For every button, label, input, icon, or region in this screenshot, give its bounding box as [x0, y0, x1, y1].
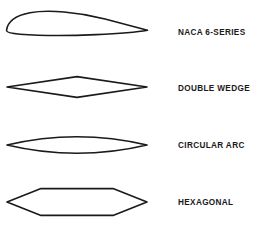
profile-label-naca-6-series: NACA 6-SERIES: [178, 29, 263, 37]
naca-6-series-shape: [0, 0, 160, 58]
profile-label-circular-arc: CIRCULAR ARC: [178, 142, 263, 150]
circular-arc-shape: [0, 116, 160, 174]
hexagonal-shape: [0, 173, 160, 231]
profile-label-hexagonal: HEXAGONAL: [178, 199, 263, 207]
double-wedge-shape: [0, 58, 160, 116]
airfoil-profiles-figure: NACA 6-SERIES DOUBLE WEDGE CIRCULAR ARC …: [0, 0, 263, 234]
profile-label-double-wedge: DOUBLE WEDGE: [178, 85, 263, 93]
